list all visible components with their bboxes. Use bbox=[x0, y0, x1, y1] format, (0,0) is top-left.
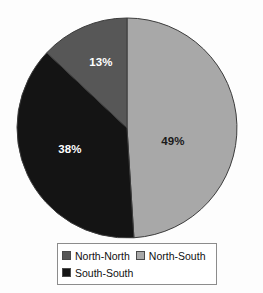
legend-item-south-south[interactable]: South-South bbox=[62, 267, 133, 279]
pie-slice-north-south[interactable] bbox=[127, 18, 237, 238]
legend-swatch-icon bbox=[62, 268, 71, 277]
pie-slices-group bbox=[17, 18, 237, 238]
legend-swatch-icon bbox=[62, 251, 71, 260]
legend-row: North-NorthNorth-South bbox=[62, 247, 212, 264]
legend-item-label: North-South bbox=[149, 250, 206, 262]
legend-swatch-icon bbox=[136, 251, 145, 260]
pie-slice-label-south-south: 38% bbox=[58, 143, 81, 155]
pie-plot-area: 49%38%13% bbox=[0, 0, 263, 245]
pie-svg: 49%38%13% bbox=[0, 0, 263, 245]
chart-legend: North-NorthNorth-SouthSouth-South bbox=[57, 243, 217, 285]
pie-slice-label-north-north: 13% bbox=[89, 56, 112, 68]
pie-chart-figure: 49%38%13% North-NorthNorth-SouthSouth-So… bbox=[0, 0, 263, 293]
legend-item-label: North-North bbox=[75, 250, 130, 262]
legend-item-north-south[interactable]: North-South bbox=[136, 250, 206, 262]
legend-row: South-South bbox=[62, 264, 212, 281]
legend-item-label: South-South bbox=[75, 267, 133, 279]
pie-slice-label-north-south: 49% bbox=[161, 135, 184, 147]
legend-item-north-north[interactable]: North-North bbox=[62, 250, 130, 262]
